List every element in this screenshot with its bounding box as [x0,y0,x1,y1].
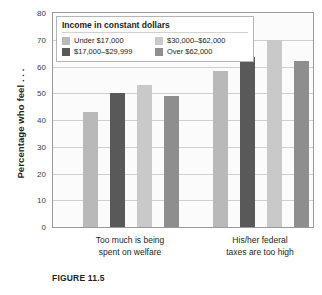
figure-container: Percentage who feel . . . 80706050403020… [0,0,322,295]
bar [110,93,125,227]
legend-label: $30,000–$62,000 [167,36,225,45]
legend: Income in constant dollars Under $17,000… [56,16,254,62]
legend-item: $30,000–$62,000 [155,35,248,46]
bar [164,96,179,227]
legend-label: Under $17,000 [74,36,124,45]
figure-caption: FIGURE 11.5 [52,273,105,283]
legend-item: Under $17,000 [62,35,155,46]
bar [83,112,98,227]
y-axis-tick-label: 20 [22,169,46,178]
legend-swatch-icon [62,37,70,45]
bar [240,57,255,227]
legend-label: $17,000–$29,999 [74,47,132,56]
x-axis-category-label-line: spent on welfare [60,246,200,258]
x-axis-category-label: Too much is beingspent on welfare [60,234,200,258]
legend-swatch-icon [62,48,70,56]
bar [137,85,152,227]
legend-items: Under $17,000$30,000–$62,000$17,000–$29,… [62,32,248,57]
y-axis-tick-label: 0 [22,223,46,232]
bar [267,40,282,227]
y-axis-tick-label: 50 [22,89,46,98]
y-axis-tick-label: 60 [22,62,46,71]
x-axis-category-labels: Too much is beingspent on welfareHis/her… [52,234,314,268]
x-axis-category-label-line: taxes are too high [190,246,322,258]
y-axis-tick-labels: 80706050403020100 [22,12,46,228]
legend-swatch-icon [155,48,163,56]
y-axis-tick-label: 40 [22,116,46,125]
legend-swatch-icon [155,37,163,45]
y-axis-tick-label: 80 [22,9,46,18]
x-axis-category-label-line: Too much is being [60,234,200,246]
x-axis-category-label: His/her federaltaxes are too high [190,234,322,258]
legend-item: $17,000–$29,999 [62,46,155,57]
x-axis-category-label-line: His/her federal [190,234,322,246]
y-axis-tick-label: 10 [22,196,46,205]
y-axis-tick-label: 70 [22,35,46,44]
legend-label: Over $62,000 [167,47,212,56]
legend-item: Over $62,000 [155,46,248,57]
legend-title: Income in constant dollars [62,20,248,32]
bar [213,71,228,227]
y-axis-tick-label: 30 [22,142,46,151]
bar [294,61,309,227]
